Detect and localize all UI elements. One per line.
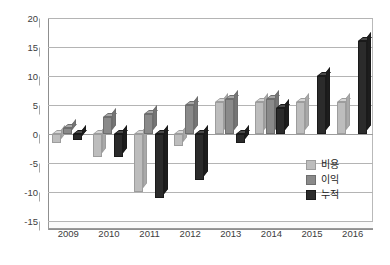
y-tick-label--15: -15: [0, 216, 38, 227]
bar-profit-2011: [144, 114, 153, 134]
bar-side-face: [234, 90, 238, 130]
bar-group-2009: [48, 18, 89, 221]
bar-front-face: [337, 102, 346, 134]
x-tick-label-2016: 2016: [342, 228, 363, 239]
bar-front-face: [296, 102, 305, 134]
legend: 비용 이익 누적: [306, 157, 368, 202]
x-tick-label-2014: 2014: [261, 228, 282, 239]
bar-cost-2009: [52, 134, 61, 143]
legend-label-cumulative: 누적: [321, 189, 339, 200]
y-tick-label-5: 5: [0, 100, 38, 111]
bar-front-face: [73, 134, 82, 140]
bar-group-2010: [89, 18, 130, 221]
bar-front-face: [144, 114, 153, 134]
y-tick-label-0: 0: [0, 129, 38, 140]
bar-front-face: [266, 99, 275, 134]
bar-cost-2010: [93, 134, 102, 157]
legend-label-cost: 비용: [321, 159, 339, 170]
bar-front-face: [114, 134, 123, 157]
bar-front-face: [93, 134, 102, 157]
bar-cost-2012: [174, 134, 183, 146]
x-axis: 20092010201120122013201420152016: [48, 228, 373, 244]
bar-front-face: [155, 134, 164, 198]
bar-side-face: [164, 125, 168, 194]
bar-side-face: [285, 99, 289, 130]
bar-front-face: [317, 76, 326, 134]
bar-cumulative-2011: [155, 134, 164, 198]
bar-front-face: [174, 134, 183, 146]
legend-item-profit: 이익: [306, 172, 368, 187]
bar-front-face: [255, 102, 264, 134]
gridline--15: [48, 221, 373, 222]
bar-front-face: [134, 134, 143, 192]
bar-side-face: [204, 125, 208, 177]
bar-chart: 20151050-5-10-15 20092010201120122013201…: [0, 0, 390, 265]
bar-cost-2015: [296, 102, 305, 134]
bar-cumulative-2010: [114, 134, 123, 157]
bar-front-face: [63, 128, 72, 134]
bar-group-2014: [251, 18, 292, 221]
bar-front-face: [215, 102, 224, 134]
bar-front-face: [185, 105, 194, 134]
bar-front-face: [236, 134, 245, 143]
y-tick-label-10: 10: [0, 71, 38, 82]
bar-side-face: [153, 105, 157, 130]
legend-swatch-cumulative: [306, 190, 316, 200]
bar-front-face: [358, 41, 367, 134]
bar-cumulative-2013: [236, 134, 245, 143]
bar-side-face: [72, 119, 76, 130]
bar-side-face: [305, 93, 309, 130]
bar-side-face: [245, 125, 249, 139]
bar-profit-2010: [103, 117, 112, 134]
bar-side-face: [112, 107, 116, 130]
x-tick-label-2015: 2015: [301, 228, 322, 239]
legend-label-profit: 이익: [321, 174, 339, 185]
bar-group-2011: [129, 18, 170, 221]
bar-front-face: [225, 99, 234, 134]
x-tick-label-2013: 2013: [220, 228, 241, 239]
legend-item-cumulative: 누적: [306, 187, 368, 202]
bar-side-face: [194, 96, 198, 130]
bar-front-face: [52, 134, 61, 143]
x-tick-label-2011: 2011: [139, 228, 159, 239]
y-tick-label--5: -5: [0, 158, 38, 169]
legend-item-cost: 비용: [306, 157, 368, 172]
bar-side-face: [346, 93, 350, 130]
bar-group-2013: [211, 18, 252, 221]
bar-cumulative-2012: [195, 134, 204, 180]
bar-group-2012: [170, 18, 211, 221]
bar-cost-2014: [255, 102, 264, 134]
y-tick-label--10: -10: [0, 187, 38, 198]
bar-cumulative-2015: [317, 76, 326, 134]
bar-front-face: [103, 117, 112, 134]
bar-profit-2014: [266, 99, 275, 134]
bar-side-face: [82, 125, 86, 136]
x-tick-label-2009: 2009: [58, 228, 79, 239]
bar-profit-2012: [185, 105, 194, 134]
legend-swatch-cost: [306, 160, 316, 170]
bar-cumulative-2014: [276, 108, 285, 134]
bar-cumulative-2009: [73, 134, 82, 140]
legend-swatch-profit: [306, 175, 316, 185]
bar-front-face: [195, 134, 204, 180]
x-tick-label-2012: 2012: [180, 228, 201, 239]
bar-cost-2013: [215, 102, 224, 134]
bar-side-face: [123, 125, 127, 153]
bar-cumulative-2016: [358, 41, 367, 134]
bar-front-face: [276, 108, 285, 134]
bar-side-face: [326, 67, 330, 130]
bar-cost-2016: [337, 102, 346, 134]
x-tick-label-2010: 2010: [98, 228, 119, 239]
bar-cost-2011: [134, 134, 143, 192]
y-tick-label-15: 15: [0, 42, 38, 53]
bar-side-face: [143, 125, 147, 188]
bar-side-face: [367, 32, 371, 130]
bar-profit-2013: [225, 99, 234, 134]
y-tick-label-20: 20: [0, 13, 38, 24]
bar-profit-2009: [63, 128, 72, 134]
